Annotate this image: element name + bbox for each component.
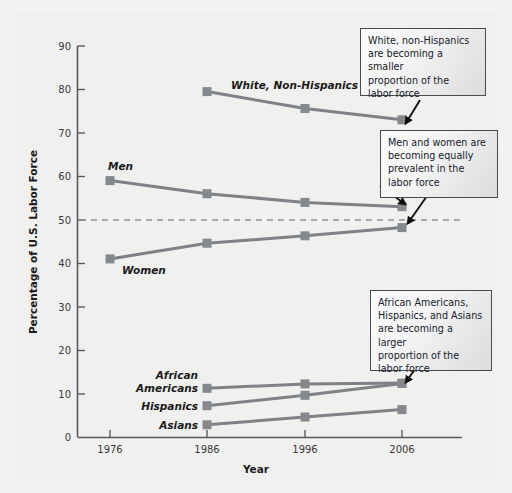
marker-hispanics-1996 bbox=[301, 391, 310, 400]
callout-minorities: African Americans, Hispanics, and Asians… bbox=[370, 290, 492, 371]
x-tick-label-1996: 1996 bbox=[292, 444, 317, 455]
series-label-african-americans-line2: Americans bbox=[135, 382, 198, 394]
y-axis-title: Percentage of U.S. Labor Force bbox=[27, 150, 39, 334]
callout-white-non-hispanics: White, non-Hispanics are becoming a smal… bbox=[360, 28, 486, 96]
marker-women-2006 bbox=[398, 223, 407, 232]
arrow-women bbox=[408, 196, 427, 223]
series-label-asians: Asians bbox=[158, 419, 198, 431]
x-tick-label-2006: 2006 bbox=[389, 444, 414, 455]
y-tick-label-20: 20 bbox=[58, 345, 71, 356]
marker-women-1976 bbox=[106, 254, 115, 263]
arrow-white bbox=[406, 100, 420, 123]
figure-frame: 90 80 70 60 50 40 30 20 10 0 1976 1986 1… bbox=[0, 0, 512, 493]
y-tick-label-30: 30 bbox=[58, 302, 71, 313]
marker-african-americans-1986 bbox=[203, 384, 212, 393]
y-tick-label-60: 60 bbox=[58, 171, 71, 182]
series-label-african-americans-line1: African bbox=[155, 369, 198, 381]
x-tick-label-1976: 1976 bbox=[97, 444, 122, 455]
marker-african-americans-1996 bbox=[301, 379, 310, 388]
series-markers bbox=[106, 87, 407, 429]
marker-women-1996 bbox=[301, 231, 310, 240]
y-tick-label-90: 90 bbox=[58, 41, 71, 52]
x-tick-marks bbox=[110, 430, 402, 438]
y-tick-label-40: 40 bbox=[58, 258, 71, 269]
x-tick-label-1986: 1986 bbox=[194, 444, 219, 455]
y-tick-label-10: 10 bbox=[58, 389, 71, 400]
series-label-hispanics: Hispanics bbox=[141, 400, 198, 412]
series-line-men bbox=[110, 181, 402, 207]
marker-asians-2006 bbox=[398, 405, 407, 414]
callout-men-women: Men and women are becoming equally preva… bbox=[380, 130, 498, 198]
series-label-men: Men bbox=[108, 160, 133, 172]
y-tick-label-80: 80 bbox=[58, 84, 71, 95]
marker-men-1996 bbox=[301, 198, 310, 207]
series-label-women: Women bbox=[122, 264, 166, 276]
x-axis-title: Year bbox=[242, 463, 270, 475]
series-lines bbox=[110, 92, 402, 425]
y-tick-label-50: 50 bbox=[58, 215, 71, 226]
y-tick-label-70: 70 bbox=[58, 128, 71, 139]
marker-men-1986 bbox=[203, 189, 212, 198]
marker-white-2006 bbox=[398, 115, 407, 124]
marker-hispanics-1986 bbox=[203, 401, 212, 410]
marker-asians-1996 bbox=[301, 413, 310, 422]
marker-asians-1986 bbox=[203, 420, 212, 429]
marker-women-1986 bbox=[203, 239, 212, 248]
marker-hispanics-2006 bbox=[398, 379, 407, 388]
series-line-women bbox=[110, 228, 402, 259]
marker-white-1996 bbox=[301, 104, 310, 113]
marker-white-1986 bbox=[203, 87, 212, 96]
series-label-white-non-hispanics: White, Non-Hispanics bbox=[231, 79, 358, 91]
marker-men-1976 bbox=[106, 176, 115, 185]
y-tick-label-0: 0 bbox=[65, 432, 71, 443]
